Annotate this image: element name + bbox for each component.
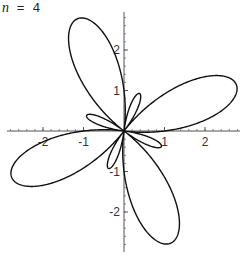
- y-tick-label: 2: [113, 43, 120, 57]
- polar-plot: n = 4 -2-11221-1-2: [0, 0, 240, 257]
- x-tick-label: 2: [202, 135, 209, 149]
- y-tick-label: -1: [109, 165, 120, 179]
- y-tick-label: 1: [113, 84, 120, 98]
- plot-canvas: -2-11221-1-2: [0, 0, 240, 257]
- x-tick-label: -1: [78, 135, 89, 149]
- y-tick-label: -2: [109, 205, 120, 219]
- x-tick-label: 1: [161, 135, 168, 149]
